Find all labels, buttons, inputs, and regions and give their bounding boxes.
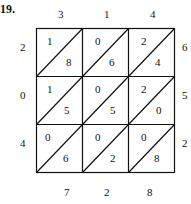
cell-ones: 2 [110, 153, 116, 164]
cell-tens: 1 [47, 36, 53, 47]
cell-ones: 5 [64, 105, 70, 116]
cell-tens: 0 [45, 132, 51, 143]
cell-tens: 0 [95, 36, 101, 47]
cell-ones: 4 [155, 57, 161, 68]
cell-tens: 1 [47, 84, 53, 95]
cell-tens: 2 [141, 36, 147, 47]
cell-tens: 0 [141, 132, 147, 143]
lattice-grid [0, 0, 191, 204]
cell-ones: 8 [154, 153, 160, 164]
cell-ones: 6 [109, 57, 115, 68]
cell-ones: 8 [66, 57, 72, 68]
cell-tens: 0 [95, 132, 101, 143]
cell-tens: 0 [95, 84, 101, 95]
cell-ones: 0 [156, 105, 162, 116]
cell-tens: 2 [141, 84, 147, 95]
cell-ones: 5 [110, 105, 116, 116]
cell-ones: 6 [63, 153, 69, 164]
